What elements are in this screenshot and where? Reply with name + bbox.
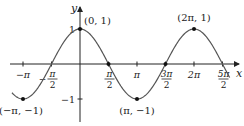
zero-marker <box>107 62 111 66</box>
point-label: (2π, 1) <box>177 12 211 23</box>
cosine-graph: x y −ππ2−π2π3π22π5π21−1 (0, 1)(2π, 1)(−π… <box>0 0 244 126</box>
x-tick-label: π2− <box>39 69 58 90</box>
point-marker <box>135 97 139 101</box>
point-label: (0, 1) <box>84 15 111 26</box>
point-marker <box>78 27 82 31</box>
svg-text:2: 2 <box>50 80 56 90</box>
svg-text:2: 2 <box>107 80 113 90</box>
point-label: (π, −1) <box>119 105 155 116</box>
x-tick-label: 5π2 <box>218 69 231 90</box>
point-marker <box>21 97 25 101</box>
point-marker <box>192 27 196 31</box>
y-tick-label: −1 <box>61 94 75 105</box>
svg-text:5π: 5π <box>218 69 231 79</box>
y-axis-label: y <box>70 2 78 15</box>
svg-text:2: 2 <box>221 80 227 90</box>
x-axis-label: x <box>236 67 243 80</box>
svg-text:2: 2 <box>164 80 170 90</box>
point-label: (−π, −1) <box>0 105 43 116</box>
x-tick-label: 3π2 <box>161 69 174 90</box>
x-tick-label: π <box>133 69 141 80</box>
zero-marker <box>164 62 168 66</box>
svg-text:π: π <box>49 69 57 79</box>
x-tick-label: 2π <box>187 69 201 80</box>
x-tick-label: −π <box>16 69 31 80</box>
